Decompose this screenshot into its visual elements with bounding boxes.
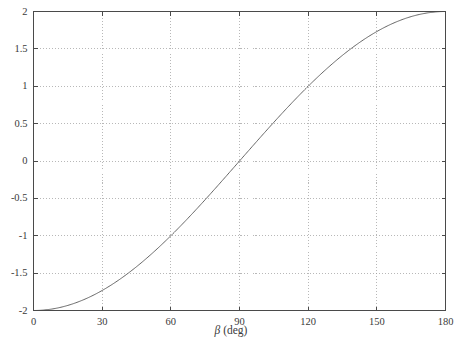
data-curve [34, 12, 446, 311]
y-tick-label: 0 [22, 156, 27, 167]
y-tick-label: 1 [22, 81, 27, 92]
y-tick-label: -0.5 [11, 193, 28, 204]
x-axis-title-unit: (deg) [220, 324, 247, 336]
y-tick-label: -1.5 [11, 268, 28, 279]
chart-figure: -2-1.5-1-0.500.511.52 0306090120150180 β… [0, 0, 462, 348]
y-tick-label: 0.5 [14, 118, 27, 129]
y-tick-label: 1.5 [14, 44, 27, 55]
data-curve-group [34, 12, 446, 311]
y-tick-label: -1 [19, 231, 28, 242]
plot-canvas [0, 0, 462, 348]
x-axis-title: β (deg) [0, 325, 462, 337]
y-tick-label: -2 [19, 305, 28, 316]
y-tick-label: 2 [22, 6, 27, 17]
